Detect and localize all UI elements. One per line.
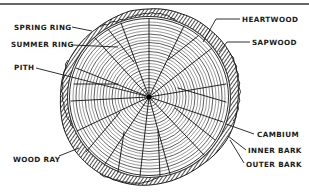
log-cross-section-diagram: SPRING RING SUMMER RING PITH WOOD RAY HE… [0,0,309,193]
label-wood-ray: WOOD RAY [13,155,61,164]
leader-inner-bark [228,136,246,150]
label-summer-ring: SUMMER RING [11,40,74,49]
pith [146,94,151,99]
leader-spring-ring [72,27,92,31]
label-outer-bark: OUTER BARK [246,160,302,169]
label-cambium: CAMBIUM [257,130,299,139]
label-heartwood: HEARTWOOD [242,15,298,24]
label-sapwood: SAPWOOD [252,38,297,47]
log [60,9,240,186]
label-inner-bark: INNER BARK [248,146,302,155]
label-spring-ring: SPRING RING [14,23,72,32]
label-pith: PITH [14,63,34,72]
